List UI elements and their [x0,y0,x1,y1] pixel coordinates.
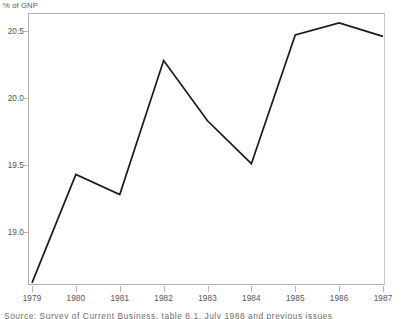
y-axis-tick-label: 20.0 [8,94,24,103]
x-axis-tick-label: 1983 [198,294,217,303]
source-caption: Source: Survey of Current Business, tabl… [4,311,333,319]
x-axis-tick-mark [251,286,252,292]
x-axis-tick-label: 1985 [286,294,305,303]
x-axis-tick-label: 1987 [374,294,393,303]
y-axis-tick-mark [23,98,29,99]
x-axis-tick-label: 1980 [67,294,86,303]
x-axis-tick-mark [339,286,340,292]
x-axis-tick-mark [76,286,77,292]
x-axis-tick-mark [208,286,209,292]
y-axis-tick-mark [23,31,29,32]
x-axis-tick-mark [32,286,33,292]
x-axis-tick-mark [164,286,165,292]
y-axis-tick-label: 19.0 [8,228,24,237]
chart-figure: % of GNP 20.520.019.519.0 19791980198119… [0,0,403,319]
y-axis-tick-label: 19.5 [8,161,24,170]
y-axis-tick-group: 20.520.019.519.0 [0,0,24,319]
y-axis-tick-mark [23,165,29,166]
x-axis-tick-label: 1982 [154,294,173,303]
line-series-gnp [32,23,383,283]
x-axis-tick-mark [383,286,384,292]
x-axis-tick-label: 1981 [110,294,129,303]
x-axis-tick-mark [295,286,296,292]
x-axis-tick-label: 1979 [23,294,42,303]
y-axis-tick-label: 20.5 [8,27,24,36]
y-axis-tick-mark [23,232,29,233]
x-axis-tick-label: 1986 [330,294,349,303]
x-axis-tick-mark [120,286,121,292]
x-axis-tick-label: 1984 [242,294,261,303]
line-series-layer [28,13,385,285]
